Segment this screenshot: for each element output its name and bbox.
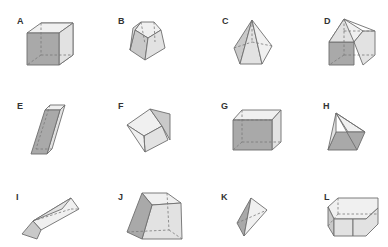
solid-cell-l: L [291,164,388,246]
solid-cell-f: F [97,82,194,164]
solid-cell-h: H [291,82,388,164]
tilted-quadrilateral-pyramid-icon [291,82,388,164]
oblique-prism-icon [0,82,97,164]
pentagonal-frustum-icon [97,0,194,82]
solid-cell-k: K [194,164,291,246]
solid-cell-c: C [194,0,291,82]
tetrahedron-icon [194,164,291,246]
pointed-triangular-prism-icon [0,164,97,246]
solid-cell-j: J [97,164,194,246]
solid-cell-i: I [0,164,97,246]
solid-cell-d: D [291,0,388,82]
solid-cell-a: A [0,0,97,82]
trapezoidal-frustum-icon [97,164,194,246]
cube-icon [0,0,97,82]
slanted-rectangular-prism-icon [194,82,291,164]
solid-cell-b: B [97,0,194,82]
tilted-triangular-prism-icon [97,82,194,164]
solid-cell-g: G [194,82,291,164]
pentagonal-pyramid-icon [194,0,291,82]
solid-cell-e: E [0,82,97,164]
hexagonal-prism-icon [291,164,388,246]
pentagonal-prism-icon [291,0,388,82]
